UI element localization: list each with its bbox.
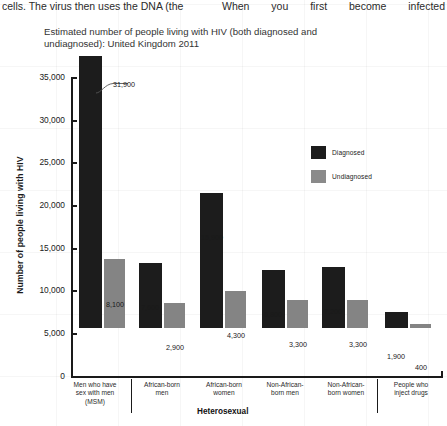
x-axis-category-labels: Men who have sex with men (MSM) African-…	[0, 379, 447, 426]
category-label-african-born-women-line-2: women	[193, 389, 255, 397]
header-word-infected: infected	[408, 0, 445, 13]
bar-diagnosed-african-born-men	[139, 263, 162, 328]
category-label-inject-drugs-line-1: People who	[380, 381, 442, 389]
bar-undiagnosed-msm	[104, 259, 125, 328]
legend-swatch-diagnosed-icon	[311, 146, 326, 159]
bar-diagnosed-msm	[79, 56, 102, 328]
bar-diagnosed-non-african-born-men	[262, 270, 285, 328]
bar-value-diagnosed-inject-drugs: 1,900	[376, 352, 416, 361]
header-word-when: When	[222, 0, 249, 13]
category-label-african-born-men-line-2: men	[132, 389, 192, 397]
category-label-msm: Men who have sex with men (MSM)	[60, 381, 130, 406]
category-label-msm-line-3: (MSM)	[60, 398, 130, 406]
category-label-inject-drugs: People who inject drugs	[380, 381, 442, 398]
category-label-msm-line-1: Men who have	[60, 381, 130, 389]
bar-value-diagnosed-african-born-women: 15,900	[190, 233, 234, 242]
bar-value-undiagnosed-non-african-born-men: 3,300	[278, 340, 318, 349]
category-label-non-african-born-women: Non-African- born women	[314, 381, 378, 398]
bar-undiagnosed-african-born-women	[225, 291, 246, 328]
category-label-african-born-women-line-1: African-born	[193, 381, 255, 389]
header-word-you: you	[271, 0, 288, 13]
bar-value-undiagnosed-non-african-born-women: 3,300	[338, 340, 378, 349]
category-label-msm-line-2: sex with men	[60, 389, 130, 397]
header-left-text: cells. The virus then uses the DNA (the	[0, 0, 222, 13]
bar-diagnosed-african-born-women	[200, 193, 223, 328]
category-label-non-african-born-women-line-2: born women	[314, 389, 378, 397]
category-label-african-born-men: African-born men	[132, 381, 192, 398]
category-label-african-born-women: African-born women	[193, 381, 255, 398]
legend-item-diagnosed: Diagnosed	[311, 146, 372, 159]
legend-label-diagnosed: Diagnosed	[332, 149, 364, 156]
bar-value-diagnosed-non-african-born-women: 7,200	[313, 307, 353, 316]
legend-label-undiagnosed: Undiagnosed	[332, 173, 372, 180]
chart-plot-area: Number of people living with HIV 35,000 …	[0, 60, 447, 426]
bar-diagnosed-inject-drugs	[385, 312, 408, 328]
legend-swatch-undiagnosed-icon	[311, 170, 326, 183]
bar-value-undiagnosed-african-born-women: 4,300	[216, 331, 256, 340]
bar-value-diagnosed-msm: 31,900	[113, 80, 153, 89]
category-label-non-african-born-men-line-2: born men	[254, 389, 316, 397]
bar-value-diagnosed-african-born-men: 7,600	[130, 303, 170, 312]
bar-value-undiagnosed-african-born-men: 2,900	[155, 343, 195, 352]
bar-diagnosed-non-african-born-women	[322, 267, 345, 328]
bar-value-undiagnosed-inject-drugs: 400	[402, 363, 440, 372]
category-label-african-born-men-line-1: African-born	[132, 381, 192, 389]
header-word-first: first	[310, 0, 327, 13]
category-label-non-african-born-men-line-1: Non-African-	[254, 381, 316, 389]
bar-series-group: 31,900 8,100 7,600 2,900 15,900 4,300 6,…	[0, 60, 447, 378]
category-label-non-african-born-women-line-1: Non-African-	[314, 381, 378, 389]
chart-title: Estimated number of people living with H…	[44, 26, 374, 50]
header-word-become: become	[349, 0, 386, 13]
category-label-non-african-born-men: Non-African- born men	[254, 381, 316, 398]
bar-value-diagnosed-non-african-born-men: 6,800	[253, 310, 293, 319]
bar-value-undiagnosed-msm: 8,100	[95, 300, 135, 309]
chart-legend: Diagnosed Undiagnosed	[311, 146, 372, 194]
bar-undiagnosed-inject-drugs	[410, 324, 431, 328]
chart-title-line-1: Estimated number of people living with H…	[44, 26, 374, 38]
header-right-text: When you first become infected	[222, 0, 447, 13]
category-label-inject-drugs-line-2: inject drugs	[380, 389, 442, 397]
legend-item-undiagnosed: Undiagnosed	[311, 170, 372, 183]
page-header: cells. The virus then uses the DNA (the …	[0, 0, 447, 20]
chart-title-line-2: undiagnosed): United Kingdom 2011	[44, 38, 374, 50]
group-label-heterosexual: Heterosexual	[197, 407, 248, 416]
